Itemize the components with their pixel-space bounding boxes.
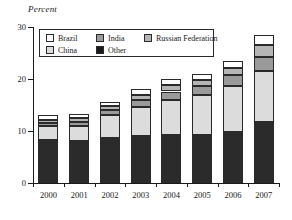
x-tick-mark	[33, 183, 34, 187]
x-tick-mark	[95, 183, 96, 187]
bar-segment	[131, 89, 151, 94]
x-tick-label: 2006	[216, 190, 250, 200]
chart-legend: BrazilIndiaRussian FederationChinaOther	[39, 29, 214, 57]
legend-swatch-icon	[46, 34, 54, 42]
legend-item-russian-federation[interactable]: Russian Federation	[144, 33, 218, 43]
legend-swatch-icon	[96, 34, 104, 42]
y-tick-label: 30	[4, 23, 26, 31]
bar-segment	[161, 100, 181, 135]
x-tick-label: 2002	[93, 190, 127, 200]
bar-segment	[223, 86, 243, 132]
bar-segment	[192, 86, 212, 95]
bar-segment	[254, 71, 274, 122]
bar-segment	[254, 57, 274, 71]
bar-segment	[100, 102, 120, 106]
bar-segment	[192, 80, 212, 87]
bar-segment	[38, 140, 58, 183]
legend-item-china[interactable]: China	[46, 45, 77, 55]
bar-segment	[100, 138, 120, 183]
bar-segment	[38, 120, 58, 123]
legend-swatch-icon	[96, 46, 104, 54]
bar-segment	[38, 115, 58, 119]
x-tick-mark	[125, 183, 126, 187]
x-tick-label: 2003	[124, 190, 158, 200]
bar-2006	[223, 27, 243, 183]
bar-segment	[192, 95, 212, 135]
x-tick-label: 2005	[185, 190, 219, 200]
x-tick-label: 2001	[62, 190, 96, 200]
legend-label: Other	[108, 46, 126, 55]
legend-label: China	[58, 46, 77, 55]
x-tick-mark	[279, 183, 280, 187]
bar-segment	[192, 74, 212, 80]
bar-segment	[161, 92, 181, 100]
bar-segment	[223, 68, 243, 76]
x-tick-mark	[64, 183, 65, 187]
x-tick-label: 2007	[247, 190, 281, 200]
bar-segment	[223, 132, 243, 183]
legend-swatch-icon	[46, 46, 54, 54]
legend-item-india[interactable]: India	[96, 33, 124, 43]
bar-segment	[131, 136, 151, 183]
x-tick-mark	[248, 183, 249, 187]
bar-segment	[69, 118, 89, 122]
y-axis-title: Percent	[28, 4, 57, 14]
legend-swatch-icon	[144, 34, 152, 42]
bar-segment	[69, 114, 89, 118]
x-tick-mark	[187, 183, 188, 187]
legend-label: India	[108, 34, 124, 43]
x-tick-mark	[218, 183, 219, 187]
stacked-bar-chart: Percent 0102030 200020012002200320042005…	[0, 0, 292, 220]
bar-segment	[100, 115, 120, 138]
x-tick-label: 2004	[154, 190, 188, 200]
bar-segment	[131, 95, 151, 100]
bar-segment	[223, 61, 243, 68]
bar-segment	[69, 122, 89, 126]
bar-segment	[254, 35, 274, 45]
bar-segment	[223, 75, 243, 85]
bar-segment	[38, 123, 58, 127]
legend-label: Brazil	[58, 34, 78, 43]
legend-item-brazil[interactable]: Brazil	[46, 33, 78, 43]
y-tick-label: 0	[4, 179, 26, 187]
bar-segment	[100, 110, 120, 115]
bar-segment	[161, 85, 181, 91]
bar-segment	[100, 106, 120, 110]
legend-item-other[interactable]: Other	[96, 45, 126, 55]
bar-segment	[69, 141, 89, 183]
bar-segment	[254, 122, 274, 183]
x-tick-mark	[156, 183, 157, 187]
bar-segment	[192, 135, 212, 183]
x-tick-label: 2000	[31, 190, 65, 200]
bar-segment	[254, 45, 274, 57]
y-tick-label: 20	[4, 75, 26, 83]
bar-segment	[161, 135, 181, 183]
y-tick-label: 10	[4, 127, 26, 135]
bar-segment	[131, 100, 151, 107]
bar-segment	[69, 126, 89, 142]
bar-2007	[254, 27, 274, 183]
bar-segment	[38, 126, 58, 140]
bar-segment	[131, 107, 151, 136]
bar-segment	[161, 79, 181, 85]
legend-label: Russian Federation	[156, 34, 218, 43]
